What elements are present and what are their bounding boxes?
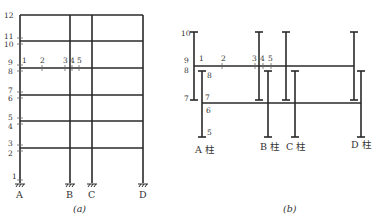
figure-b-caption: (b) [283, 203, 297, 214]
section-label: 4 [260, 54, 265, 63]
section-label: 12 [4, 11, 14, 20]
column-label-d: D 柱 [351, 139, 372, 150]
section-label: 7 [184, 94, 189, 103]
column-label-b: B [66, 189, 73, 200]
section-label: 2 [8, 149, 13, 158]
figure-a-caption: (a) [73, 203, 86, 214]
section-label: 8 [207, 71, 212, 80]
section-label: 10 [181, 29, 191, 38]
column-label-d: D [139, 189, 147, 200]
frame-diagram: 12 11 10 9 8 7 6 5 4 3 2 1 1 2 3 4 5 A B… [0, 0, 379, 223]
section-label: 5 [8, 113, 13, 122]
section-label: 2 [221, 54, 226, 63]
figure-a-full-frame [20, 15, 143, 183]
section-label: 5 [207, 128, 212, 137]
section-label: 9 [184, 56, 189, 65]
figure-b-substructure [194, 32, 361, 137]
section-label: 9 [8, 58, 13, 67]
column-end-cap-icons [190, 32, 365, 137]
section-label: 6 [8, 94, 13, 103]
fixed-support-icons [15, 184, 148, 187]
fixed-support-c-icon [87, 184, 97, 187]
section-label: 7 [205, 93, 210, 102]
section-label: 4 [8, 122, 13, 131]
beam-section-label: 3 [63, 56, 68, 65]
figure-b-labels: 10 9 8 7 1 2 3 4 5 8 7 6 5 A 柱 B 柱 C 柱 D… [181, 29, 372, 214]
section-label: 6 [206, 106, 211, 115]
fixed-support-b-icon [65, 184, 75, 187]
section-label: 10 [4, 40, 14, 49]
beam-section-label: 4 [70, 56, 75, 65]
column-label-a: A [15, 189, 23, 200]
column-label-c: C 柱 [286, 141, 306, 152]
fixed-support-d-icon [138, 184, 148, 187]
section-label: 3 [8, 139, 13, 148]
section-label: 1 [199, 54, 204, 63]
beam-section-label: 1 [22, 56, 27, 65]
beam-section-label: 2 [40, 56, 45, 65]
section-label: 1 [12, 172, 17, 181]
section-label: 8 [184, 66, 189, 75]
section-label: 5 [268, 54, 273, 63]
column-label-a: A 柱 [194, 144, 215, 155]
column-label-b: B 柱 [260, 141, 280, 152]
section-label: 3 [252, 54, 257, 63]
column-label-c: C [88, 189, 95, 200]
section-label: 8 [8, 67, 13, 76]
fixed-support-a-icon [15, 184, 25, 187]
beam-section-label: 5 [77, 56, 82, 65]
